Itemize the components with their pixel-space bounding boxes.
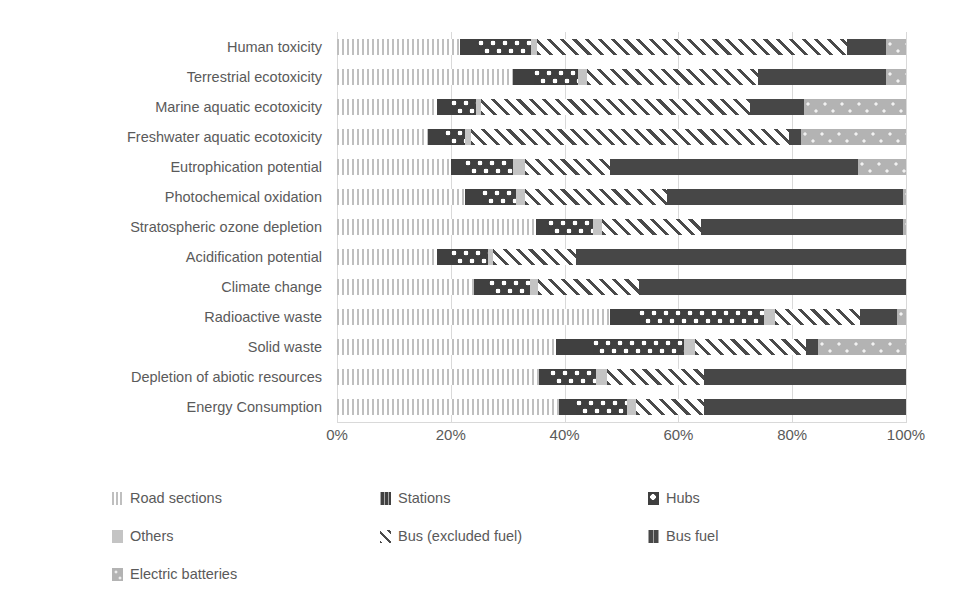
legend-item-1[interactable]: Stations [380,487,450,509]
bar-segment [428,129,445,145]
bar-segment [804,99,906,115]
bar-segment [775,309,860,325]
bar-segment [886,69,906,85]
bar-segment [337,219,536,235]
bar-segment [337,99,437,115]
stacked-bar [337,399,906,415]
bar-segment [704,399,906,415]
legend-item-label: Stations [398,490,450,506]
x-tick-label-1: 20% [436,426,466,443]
stacked-bar [337,69,906,85]
y-axis-label-5: Photochemical oxidation [0,182,322,212]
bar-segment [801,129,906,145]
bar-segment [537,39,847,55]
bar-segment [534,69,578,85]
bar-segment [750,99,804,115]
bar-segment [667,189,903,205]
bar-segment [337,339,556,355]
stacked-bar [337,159,906,175]
bar-segment [701,219,903,235]
bar-segment [847,39,886,55]
bar-segment [337,309,610,325]
bar-segment [530,279,537,295]
bar-segment [596,369,607,385]
bar-segment [559,399,576,415]
bar-segment [451,159,465,175]
chart-figure: Human toxicityTerrestrial ecotoxicityMar… [0,0,961,616]
stacked-bar [337,369,906,385]
bar-segment [474,279,489,295]
bar-segment [437,249,451,265]
bar-segment [478,39,531,55]
pattern-light-speckle-swatch [112,568,123,581]
stacked-bar [337,249,906,265]
bar-row [337,92,906,122]
pattern-solid-dark-swatch [648,530,659,543]
bar-segment [593,219,602,235]
y-axis-label-7: Acidification potential [0,242,322,272]
bar-segment [460,39,478,55]
legend-item-3[interactable]: Others [112,525,174,547]
bar-segment [548,219,594,235]
y-axis-category-labels: Human toxicityTerrestrial ecotoxicityMar… [0,32,330,422]
bar-segment [587,69,758,85]
bar-row [337,122,906,152]
bar-segment [576,399,627,415]
bar-segment [337,129,428,145]
y-axis-label-4: Eutrophication potential [0,152,322,182]
bar-segment [610,309,638,325]
bar-segment [471,129,790,145]
bar-segment [860,309,897,325]
bar-segment [337,69,513,85]
bar-segment [704,369,906,385]
chart-legend: Road sectionsStationsHubsOthersBus (excl… [112,487,902,587]
legend-item-label: Others [130,528,174,544]
bar-segment [903,189,906,205]
x-axis-line [337,422,907,423]
pattern-solid-dark-swatch [380,492,391,505]
bar-segment [602,219,702,235]
bar-segment [593,339,684,355]
stacked-bar [337,219,906,235]
x-tick-label-4: 80% [777,426,807,443]
bar-segment [525,159,610,175]
legend-item-2[interactable]: Hubs [648,487,700,509]
x-tick-label-3: 60% [663,426,693,443]
bar-segment [538,279,639,295]
legend-item-4[interactable]: Bus (excluded fuel) [380,525,522,547]
bar-segment [576,249,906,265]
bar-segment [337,369,539,385]
x-axis-tick-labels: 0%20%40%60%80%100% [337,426,906,452]
x-tick-label-5: 100% [887,426,925,443]
bar-segment [764,309,775,325]
bar-row [337,182,906,212]
bar-row [337,242,906,272]
y-axis-label-1: Terrestrial ecotoxicity [0,62,322,92]
bar-segment [536,219,547,235]
y-axis-label-3: Freshwater aquatic ecotoxicity [0,122,322,152]
bar-segment [639,279,906,295]
legend-item-6[interactable]: Electric batteries [112,563,237,585]
bar-row [337,62,906,92]
bar-segment [465,189,482,205]
bar-segment [578,69,587,85]
bar-segment [513,69,534,85]
x-tick-label-0: 0% [326,426,348,443]
gridline-100 [906,32,907,422]
stacked-bar [337,129,906,145]
legend-item-5[interactable]: Bus fuel [648,525,718,547]
y-axis-label-10: Solid waste [0,332,322,362]
y-axis-label-2: Marine aquatic ecotoxicity [0,92,322,122]
x-tick-label-2: 40% [550,426,580,443]
bar-row [337,212,906,242]
bar-segment [550,369,596,385]
legend-item-0[interactable]: Road sections [112,487,222,509]
bar-segment [695,339,806,355]
bar-segment [806,339,817,355]
stacked-bar [337,99,906,115]
bar-segment [337,159,451,175]
bar-segment [903,219,906,235]
bar-segment [493,249,576,265]
legend-item-label: Road sections [130,490,222,506]
stacked-bar [337,39,906,55]
